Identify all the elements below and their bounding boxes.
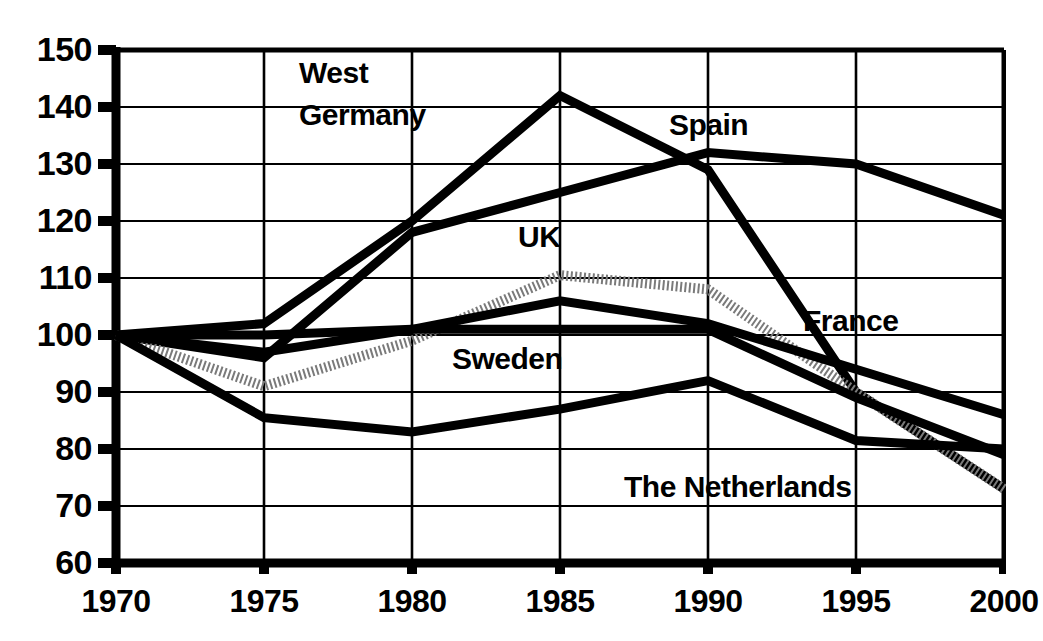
y-axis-tick-label: 100: [37, 317, 92, 351]
series-label-the-netherlands: The Netherlands: [624, 472, 852, 502]
x-axis-tick-label: 1985: [504, 585, 616, 617]
y-axis-tick-label: 70: [55, 488, 92, 522]
series-label-sweden: Sweden: [452, 344, 562, 374]
x-axis-tick-label: 1980: [356, 585, 468, 617]
y-axis-tick-label: 140: [37, 89, 92, 123]
x-axis-tick-label: 1995: [800, 585, 912, 617]
x-axis-tick-label: 1970: [60, 585, 172, 617]
x-axis-tick-label: 1990: [652, 585, 764, 617]
y-axis-tick-label: 80: [55, 431, 92, 465]
series-label-uk: UK: [518, 222, 560, 252]
x-axis-tick-label: 1975: [208, 585, 320, 617]
y-axis-tick-label: 130: [37, 146, 92, 180]
y-axis-tick-label: 150: [37, 32, 92, 66]
series-label-spain: Spain: [669, 110, 748, 140]
x-axis-tick-label: 2000: [948, 585, 1043, 617]
y-axis-tick-label: 60: [55, 545, 92, 579]
y-axis-tick-label: 120: [37, 203, 92, 237]
y-axis-tick-label: 110: [39, 260, 92, 294]
series-label-france: France: [803, 306, 898, 336]
series-label-west: West: [299, 58, 368, 88]
series-label-germany: Germany: [299, 100, 426, 130]
y-axis-tick-label: 90: [55, 374, 92, 408]
